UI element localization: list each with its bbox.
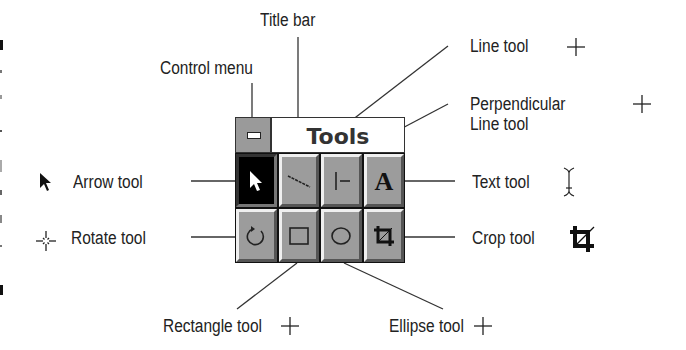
arrow-tool-label: Arrow tool (73, 172, 143, 192)
tools-palette: Tools A (235, 117, 405, 263)
crop-tool-button[interactable] (364, 209, 405, 262)
crop-cursor-icon (568, 224, 596, 254)
text-tool-button[interactable]: A (364, 154, 405, 207)
perpendicular-line-tool-label: Perpendicular Line tool (470, 94, 566, 134)
diagonal-line-icon (286, 172, 312, 190)
line-crosshair-cursor-icon (566, 37, 586, 57)
ellipse-tool-leader (344, 263, 443, 309)
title-bar-label: Title bar (260, 10, 315, 30)
text-tool-label: Text tool (472, 172, 530, 192)
arrow-cursor-icon (38, 172, 54, 194)
crop-tool-label: Crop tool (472, 228, 535, 248)
ellipse-icon (329, 225, 353, 247)
control-menu-button[interactable] (235, 117, 271, 153)
letter-a-icon: A (371, 168, 397, 194)
ellipse-tool-button[interactable] (321, 209, 362, 262)
crop-icon (372, 224, 396, 248)
arrow-pointer-icon (247, 169, 265, 193)
arrow-tool-button[interactable] (236, 154, 277, 207)
line-tool-button[interactable] (279, 154, 320, 207)
perpendicular-crosshair-cursor-icon (632, 94, 652, 114)
line-tool-label: Line tool (470, 36, 529, 56)
ellipse-crosshair-cursor-icon (473, 316, 493, 336)
tool-grid: A (236, 154, 404, 262)
ellipse-tool-label: Ellipse tool (389, 316, 464, 336)
rotate-tool-button[interactable] (236, 209, 277, 262)
i-beam-cursor-icon (562, 166, 576, 198)
rotate-icon (244, 224, 268, 248)
rectangle-tool-button[interactable] (279, 209, 320, 262)
rotate-tool-label: Rotate tool (71, 228, 146, 248)
rectangle-tool-leader (237, 263, 297, 309)
minus-box-icon (247, 132, 261, 139)
perpendicular-line-icon (328, 170, 354, 192)
perpendicular-line-tool-button[interactable] (321, 154, 362, 207)
svg-text:A: A (374, 168, 393, 194)
title-bar[interactable]: Tools (271, 117, 405, 153)
rectangle-crosshair-cursor-icon (280, 316, 300, 336)
rectangle-icon (287, 225, 311, 247)
control-menu-label: Control menu (160, 58, 253, 78)
rectangle-tool-label: Rectangle tool (163, 316, 262, 336)
rotate-crosshair-cursor-icon (35, 230, 57, 252)
